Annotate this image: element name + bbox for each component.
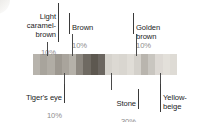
callout-light-caramel-brown-percent: 10% <box>41 48 56 57</box>
color-swatch <box>141 54 148 75</box>
color-swatch <box>91 54 98 75</box>
callout-rule-yellow-beige <box>160 83 161 112</box>
color-swatch <box>170 54 177 75</box>
callout-rule-light-caramel-brown <box>58 3 59 42</box>
callout-rule-golden-brown <box>133 13 134 34</box>
callout-yellow-beige: Yellow- beige 30% <box>163 84 207 122</box>
callout-brown-percent: 10% <box>72 41 87 50</box>
callout-golden-brown: Golden brown 10% <box>136 14 198 50</box>
callout-golden-brown-name: Golden brown <box>136 23 160 41</box>
color-swatch <box>155 54 162 75</box>
color-swatch <box>83 54 90 75</box>
color-swatch <box>119 54 126 75</box>
callout-yellow-beige-percent: 30% <box>163 120 178 122</box>
color-swatch <box>127 54 134 75</box>
leader-line-tigers-eye <box>64 73 65 84</box>
callout-brown: Brown 10% <box>72 14 108 50</box>
leader-line-brown <box>72 34 73 56</box>
callout-rule-brown <box>69 13 70 34</box>
callout-light-caramel-brown-name: Light caramel- brown <box>27 12 56 39</box>
color-swatch <box>163 54 170 75</box>
callout-tigers-eye-name: Tiger's eye <box>26 93 62 102</box>
color-swatch <box>105 54 112 75</box>
callout-golden-brown-percent: 10% <box>136 41 151 50</box>
color-palette-figure: Light caramel- brown 10% Brown 10% Golde… <box>0 0 210 122</box>
callout-tigers-eye-percent: 10% <box>47 111 62 120</box>
callout-stone-percent: 30% <box>121 117 136 122</box>
color-swatch <box>148 54 155 75</box>
callout-brown-name: Brown <box>72 23 93 32</box>
color-swatch <box>69 54 76 75</box>
leader-line-golden-brown <box>136 34 137 56</box>
color-swatch <box>98 54 105 75</box>
color-swatch <box>76 54 83 75</box>
color-swatch <box>62 54 69 75</box>
callout-rule-tigers-eye <box>64 83 65 103</box>
callout-stone-name: Stone <box>116 99 136 108</box>
leader-line-light-caramel-brown <box>47 42 48 56</box>
color-swatch <box>112 54 119 75</box>
leader-line-yellow-beige <box>160 73 161 84</box>
callout-rule-stone <box>138 89 139 109</box>
leader-line-stone <box>111 73 112 90</box>
color-swatch <box>134 54 141 75</box>
callout-tigers-eye: Tiger's eye 10% <box>6 84 62 120</box>
callout-yellow-beige-name: Yellow- beige <box>163 93 187 111</box>
callout-stone: Stone 30% <box>96 90 136 122</box>
